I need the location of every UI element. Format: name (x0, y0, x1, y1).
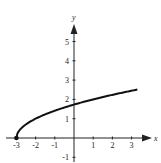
x-tick-label: -3 (13, 141, 20, 150)
x-tick-label: 2 (110, 141, 114, 150)
x-axis-arrow-icon (142, 135, 152, 142)
y-tick-label: 3 (65, 76, 69, 85)
x-tick-label: 1 (91, 141, 95, 150)
x-ticks: -3-2-1123 (13, 137, 134, 151)
x-axis-label: x (153, 134, 158, 143)
closed-endpoint-dot (14, 136, 19, 141)
y-tick-label: 1 (65, 115, 69, 124)
y-tick-label: 4 (65, 57, 69, 66)
x-tick-label: -1 (51, 141, 58, 150)
y-tick-label: 2 (65, 95, 69, 104)
y-tick-label: -1 (62, 153, 69, 162)
y-axis-label: y (71, 13, 76, 22)
y-tick-label: 5 (65, 38, 69, 47)
function-graph: x y -3-2-1123 -112345 (0, 0, 161, 163)
axes: x y (6, 13, 158, 162)
sqrt-curve (16, 90, 137, 138)
x-tick-label: 3 (130, 141, 134, 150)
y-axis-arrow-icon (71, 24, 78, 34)
x-tick-label: -2 (32, 141, 39, 150)
